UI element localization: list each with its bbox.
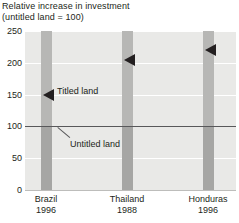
- x-category-honduras: Honduras 1996: [173, 194, 239, 216]
- bar-thailand-lower: [122, 126, 133, 190]
- y-tick-50: 50: [0, 154, 22, 163]
- x-category-honduras-year: 1996: [173, 205, 239, 216]
- leader-line-untitled-land: [57, 127, 70, 138]
- page-title: Relative increase in investment: [2, 1, 237, 12]
- y-tick-200: 200: [0, 59, 22, 68]
- y-tick-250: 250: [0, 27, 22, 36]
- marker-arrow-brazil: [43, 89, 54, 101]
- marker-arrow-honduras: [205, 44, 216, 56]
- annotation-titled-land-label: Titled land: [57, 86, 98, 96]
- x-category-thailand: Thailand 1988: [92, 194, 162, 216]
- x-axis-line: [25, 190, 236, 191]
- chart-subtitle: (untitled land = 100): [2, 12, 237, 23]
- annotation-titled-land: Titled land: [57, 86, 98, 96]
- bar-brazil-lower: [41, 126, 52, 190]
- annotation-untitled-land: Untitled land: [70, 139, 120, 149]
- plot-area: Titled land Untitled land: [25, 31, 236, 190]
- y-axis-ticks: 250 200 150 100 50 0: [0, 31, 22, 190]
- chart-title-block: Relative increase in investment (untitle…: [2, 1, 237, 23]
- x-category-thailand-year: 1988: [92, 205, 162, 216]
- bar-honduras-lower: [203, 126, 214, 190]
- marker-arrow-thailand: [124, 54, 135, 66]
- x-category-brazil: Brazil 1996: [11, 194, 81, 216]
- y-tick-100: 100: [0, 122, 22, 131]
- x-category-brazil-name: Brazil: [11, 194, 81, 205]
- x-category-honduras-name: Honduras: [173, 194, 239, 205]
- chart-figure: Relative increase in investment (untitle…: [0, 0, 239, 223]
- annotation-untitled-land-label: Untitled land: [70, 139, 120, 149]
- x-category-brazil-year: 1996: [11, 205, 81, 216]
- y-tick-150: 150: [0, 91, 22, 100]
- x-category-thailand-name: Thailand: [92, 194, 162, 205]
